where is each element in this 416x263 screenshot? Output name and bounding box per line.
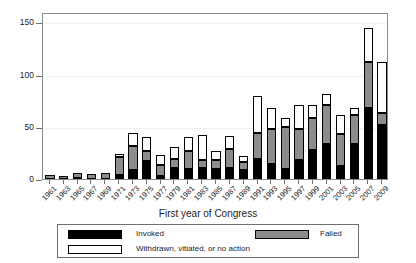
bar-column <box>142 12 151 179</box>
x-tick-label: 2009 <box>372 184 390 202</box>
bar-column <box>225 12 234 179</box>
bar-segment-failed <box>170 159 179 167</box>
bar-segment-invoked <box>308 150 317 179</box>
bar-column <box>115 12 124 179</box>
bar-column <box>239 12 248 179</box>
y-tick-label: 50 <box>4 123 34 132</box>
legend-swatch-withdrawn <box>68 245 122 254</box>
x-tick <box>49 180 50 184</box>
legend-swatch-invoked <box>68 230 122 239</box>
bar-column <box>101 12 110 179</box>
bar-segment-withdrawn <box>350 108 359 115</box>
bar-column <box>377 12 386 179</box>
bar-column <box>350 12 359 179</box>
x-tick <box>77 180 78 184</box>
y-tick-label: 0 <box>4 175 34 184</box>
bar-segment-failed <box>281 127 290 169</box>
bar-segment-withdrawn <box>253 96 262 134</box>
bar-segment-withdrawn <box>142 137 151 151</box>
bar-column <box>308 12 317 179</box>
legend-label-withdrawn: Withdrawn, vitiated, or no action <box>136 244 250 254</box>
x-tick <box>187 180 188 184</box>
bar-segment-failed <box>239 162 248 169</box>
bar-segment-failed <box>101 173 110 179</box>
bar-segment-invoked <box>128 170 137 179</box>
x-tick <box>284 180 285 184</box>
bar-segment-invoked <box>156 176 165 179</box>
bar-column <box>128 12 137 179</box>
bar-segment-invoked <box>253 159 262 179</box>
bar-segment-withdrawn <box>211 151 220 160</box>
bar-column <box>198 12 207 179</box>
x-tick <box>229 180 230 184</box>
bar-segment-invoked <box>170 168 179 179</box>
bar-segment-withdrawn <box>308 105 317 119</box>
bar-segment-withdrawn <box>115 154 124 157</box>
bar-group <box>43 14 387 179</box>
y-tick-label: 150 <box>4 18 34 27</box>
legend-label-failed: Failed <box>320 229 342 239</box>
bar-column <box>281 12 290 179</box>
bar-segment-invoked <box>211 169 220 179</box>
x-tick <box>298 180 299 184</box>
bar-segment-failed <box>225 149 234 168</box>
bar-segment-withdrawn <box>336 115 345 134</box>
bar-segment-failed <box>336 134 345 166</box>
x-tick <box>63 180 64 184</box>
x-tick <box>173 180 174 184</box>
bar-segment-invoked <box>239 170 248 179</box>
bar-column <box>211 12 220 179</box>
bar-segment-invoked <box>336 166 345 179</box>
bar-segment-withdrawn <box>322 94 331 104</box>
bar-segment-withdrawn <box>184 137 193 151</box>
x-tick <box>326 180 327 184</box>
x-tick <box>340 180 341 184</box>
bar-segment-failed <box>73 173 82 178</box>
bar-column <box>294 12 303 179</box>
bar-segment-failed <box>45 175 54 179</box>
bar-column <box>73 12 82 179</box>
bar-segment-invoked <box>281 169 290 179</box>
bar-segment-failed <box>115 157 124 175</box>
x-tick <box>104 180 105 184</box>
bar-segment-invoked <box>184 169 193 179</box>
bar-segment-withdrawn <box>128 133 137 146</box>
x-tick <box>132 180 133 184</box>
bar-segment-failed <box>294 129 303 160</box>
chart-figure: 050100150 196119631965196719691971197319… <box>0 0 416 263</box>
bar-segment-withdrawn <box>239 156 248 162</box>
bar-segment-failed <box>253 133 262 159</box>
x-tick <box>215 180 216 184</box>
x-tick <box>312 180 313 184</box>
bar-segment-withdrawn <box>156 155 165 165</box>
bar-segment-failed <box>59 176 68 179</box>
bar-column <box>364 12 373 179</box>
legend-label-invoked: Invoked <box>136 229 164 239</box>
bar-segment-withdrawn <box>198 135 207 160</box>
bar-segment-withdrawn <box>225 136 234 149</box>
bar-segment-invoked <box>267 164 276 179</box>
bar-segment-failed <box>322 105 331 144</box>
bar-segment-invoked <box>142 161 151 179</box>
bar-segment-invoked <box>225 168 234 179</box>
bar-segment-failed <box>128 146 137 170</box>
bar-segment-failed <box>211 160 220 168</box>
x-tick <box>243 180 244 184</box>
bar-segment-failed <box>142 151 151 161</box>
bar-segment-withdrawn <box>281 118 290 126</box>
bar-column <box>87 12 96 179</box>
x-axis-title: First year of Congress <box>0 208 416 219</box>
bar-segment-invoked <box>294 160 303 179</box>
y-tick <box>36 180 42 181</box>
bar-segment-withdrawn <box>170 147 179 160</box>
bar-segment-withdrawn <box>377 62 386 113</box>
bar-column <box>267 12 276 179</box>
x-tick <box>270 180 271 184</box>
bar-segment-invoked <box>115 175 124 179</box>
bar-column <box>45 12 54 179</box>
x-tick <box>367 180 368 184</box>
bar-segment-failed <box>377 113 386 124</box>
x-tick <box>160 180 161 184</box>
bar-segment-failed <box>156 165 165 175</box>
bar-segment-failed <box>198 160 207 167</box>
